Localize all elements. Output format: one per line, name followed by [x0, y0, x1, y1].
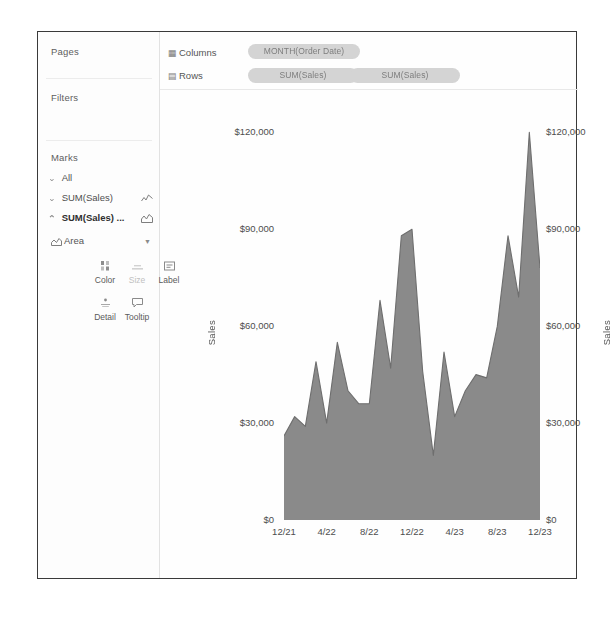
columns-shelf[interactable]: ▦Columns [168, 47, 217, 58]
marks-detail-button[interactable]: Detail [88, 296, 122, 322]
y-axis-tick-right: $0 [546, 514, 608, 525]
marks-size-button[interactable]: Size [120, 259, 154, 285]
pill-rows-sum-sales-1[interactable]: SUM(Sales) [248, 68, 358, 83]
left-shelf-panel: Pages Filters Marks ⌄ All ⌄ SUM(Sales) ⌃… [38, 32, 160, 578]
marks-row-label: SUM(Sales) [62, 192, 113, 203]
marks-tooltip-label: Tooltip [125, 312, 150, 322]
marks-card-label: Marks [51, 152, 78, 163]
marks-row-all[interactable]: ⌄ All [49, 172, 153, 187]
x-axis-tick: 12/22 [392, 526, 432, 537]
tooltip-icon [130, 296, 145, 310]
size-icon [130, 259, 145, 273]
columns-shelf-text: Columns [179, 47, 217, 58]
y-axis-tick-left: $60,000 [212, 320, 274, 331]
pill-rows-sum-sales-2[interactable]: SUM(Sales) [350, 68, 460, 83]
x-axis-tick: 12/21 [264, 526, 304, 537]
rows-icon: ▤ [168, 71, 179, 81]
x-axis-tick: 12/23 [520, 526, 560, 537]
filters-shelf-label: Filters [51, 92, 78, 103]
mark-type-dropdown[interactable]: Area ▼ [51, 235, 151, 249]
area-chart-icon [51, 237, 62, 249]
y-axis-tick-right: $120,000 [546, 126, 608, 137]
chevron-down-icon: ⌄ [48, 174, 60, 183]
rows-shelf[interactable]: ▤Rows [168, 70, 203, 81]
pages-shelf-label: Pages [51, 46, 79, 57]
y-axis-tick-right: $30,000 [546, 417, 608, 428]
marks-color-button[interactable]: Color [88, 259, 122, 285]
chart-view: Sales Sales $0$30,000$60,000$90,000$120,… [160, 90, 578, 580]
marks-detail-label: Detail [94, 312, 116, 322]
x-axis-tick: 8/23 [477, 526, 517, 537]
marks-size-label: Size [129, 275, 146, 285]
marks-row-sum-sales-2[interactable]: ⌃ SUM(Sales) ... [49, 212, 153, 227]
chevron-down-icon: ▼ [144, 238, 151, 245]
y-axis-tick-left: $0 [212, 514, 274, 525]
tableau-worksheet: Pages Filters Marks ⌄ All ⌄ SUM(Sales) ⌃… [37, 31, 577, 579]
y-axis-tick-right: $90,000 [546, 223, 608, 234]
marks-row-label: SUM(Sales) ... [62, 212, 125, 223]
mark-type-label: Area [64, 235, 84, 246]
area-chart-icon [141, 213, 153, 224]
marks-tooltip-button[interactable]: Tooltip [120, 296, 154, 322]
x-axis-tick: 8/22 [349, 526, 389, 537]
area-chart-plot [284, 100, 540, 520]
marks-row-sum-sales-1[interactable]: ⌄ SUM(Sales) [49, 192, 153, 207]
rows-shelf-text: Rows [179, 70, 203, 81]
y-axis-tick-left: $30,000 [212, 417, 274, 428]
panel-divider [46, 140, 152, 141]
chevron-up-icon: ⌃ [48, 214, 60, 223]
area-fill [284, 132, 540, 520]
panel-divider [46, 78, 152, 79]
chevron-down-icon: ⌄ [48, 194, 60, 203]
detail-icon [98, 296, 113, 310]
x-axis-tick: 4/22 [307, 526, 347, 537]
line-chart-icon [141, 193, 153, 204]
x-axis-tick: 4/23 [435, 526, 475, 537]
y-axis-tick-right: $60,000 [546, 320, 608, 331]
color-palette-icon [98, 259, 113, 273]
columns-icon: ▦ [168, 48, 179, 58]
marks-color-label: Color [95, 275, 115, 285]
y-axis-tick-left: $120,000 [212, 126, 274, 137]
marks-row-label: All [62, 172, 73, 183]
pill-columns-order-date[interactable]: MONTH(Order Date) [248, 44, 360, 59]
y-axis-tick-left: $90,000 [212, 223, 274, 234]
